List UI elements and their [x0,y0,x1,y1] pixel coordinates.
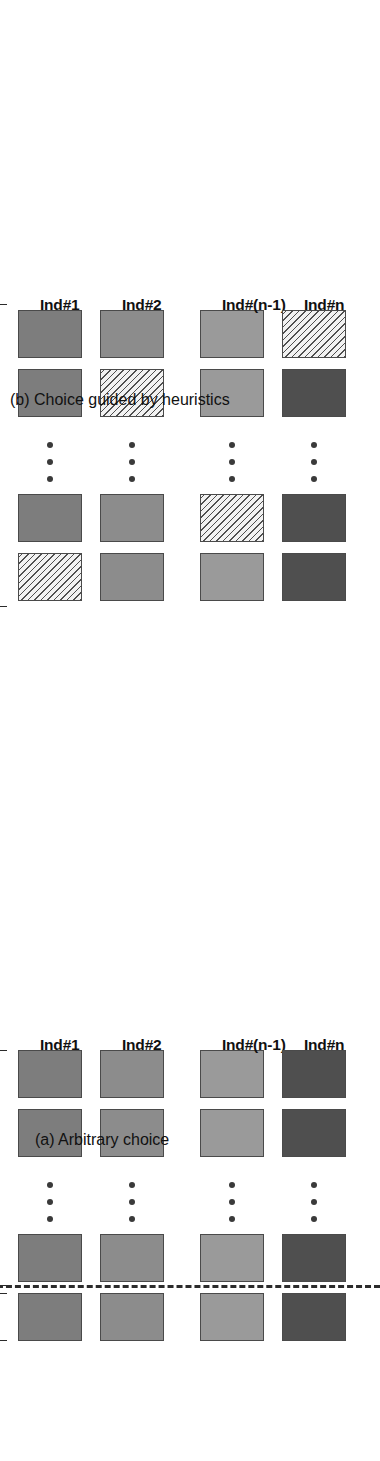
sample-box [282,369,346,417]
ellipsis-dot [311,1182,317,1188]
ellipsis-dot [229,459,235,465]
ellipsis-dot [229,1199,235,1205]
ellipsis-dot [129,476,135,482]
ellipsis-dot [47,1216,53,1222]
ellipsis-dot [229,1182,235,1188]
sample-box [200,1293,264,1341]
reference-separator-dashed-line [0,1286,380,1289]
panel-caption-a: (a) Arbitrary choice [35,1131,169,1149]
column-label-indn: Ind#n [304,296,344,314]
sample-box [282,1109,346,1157]
sample-box [100,553,164,601]
ellipsis-dot [129,459,135,465]
sample-box [100,310,164,358]
ellipsis-dot [311,459,317,465]
ellipsis-dot [47,459,53,465]
sample-box [200,494,264,542]
sample-box [18,494,82,542]
ellipsis-dot [229,1216,235,1222]
ellipsis-dot [311,1216,317,1222]
ellipsis-dot [129,1199,135,1205]
ellipsis-dots [311,1182,317,1222]
column-label-indn-1: Ind#(n-1) [222,296,286,314]
column-label-indn: Ind#n [304,1036,344,1054]
sample-box [282,1293,346,1341]
ellipsis-dot [229,476,235,482]
sample-box [18,1293,82,1341]
sample-box [282,1234,346,1282]
column-label-ind2: Ind#2 [122,296,161,314]
ellipsis-dot [311,442,317,448]
sample-box [100,1293,164,1341]
sample-box [282,553,346,601]
ellipsis-dot [311,1199,317,1205]
sample-box [18,1050,82,1098]
ellipsis-dots [229,1182,235,1222]
column-label-ind1: Ind#1 [40,296,79,314]
sample-box [282,494,346,542]
ellipsis-dots [229,442,235,482]
column-label-ind1: Ind#1 [40,1036,79,1054]
ellipsis-dot [129,1182,135,1188]
panel-b-heuristic-choice: Ind#1Ind#2Ind#(n-1)Ind#nM-1 remaining te… [0,0,350,721]
sample-box [200,553,264,601]
sample-box [100,494,164,542]
sample-box [282,310,346,358]
ellipsis-dots [129,1182,135,1222]
sample-box [100,1050,164,1098]
sample-box [282,1050,346,1098]
ellipsis-dots [129,442,135,482]
sample-box [100,1234,164,1282]
sample-box [18,1234,82,1282]
sample-box [200,1050,264,1098]
ellipsis-dots [47,442,53,482]
sample-box [18,310,82,358]
ellipsis-dot [47,476,53,482]
test-sample-bracket [0,1050,7,1286]
sample-box [18,553,82,601]
panel-a-arbitrary-choice: Ind#1Ind#2Ind#(n-1)Ind#nReference sample… [0,756,350,1461]
panel-caption-b: (b) Choice guided by heuristics [10,391,230,409]
ellipsis-dot [311,476,317,482]
ellipsis-dots [311,442,317,482]
ellipsis-dot [47,1199,53,1205]
column-label-ind2: Ind#2 [122,1036,161,1054]
ellipsis-dot [47,1182,53,1188]
sample-box [200,310,264,358]
sample-box [200,1109,264,1157]
ellipsis-dots [47,1182,53,1222]
ellipsis-dot [47,442,53,448]
column-label-indn-1: Ind#(n-1) [222,1036,286,1054]
reference-sample-bracket [0,1293,7,1341]
test-sample-bracket [0,304,7,607]
sample-box [200,1234,264,1282]
ellipsis-dot [129,442,135,448]
ellipsis-dot [129,1216,135,1222]
ellipsis-dot [229,442,235,448]
